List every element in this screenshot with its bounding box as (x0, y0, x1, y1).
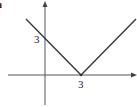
y-intercept-label: 3 (34, 34, 40, 45)
x-axis (8, 73, 137, 78)
graph-canvas (0, 0, 137, 107)
x-intercept-label: 3 (78, 79, 84, 90)
vertex-point (80, 74, 83, 77)
y-axis-arrow-icon (43, 1, 48, 7)
function-curve (26, 19, 136, 75)
y-axis (43, 1, 48, 105)
x-axis-arrow-icon (131, 73, 137, 78)
